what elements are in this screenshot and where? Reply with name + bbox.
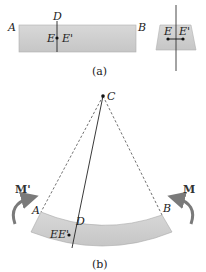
straight-beam — [19, 25, 136, 52]
moment-m-arrow — [176, 198, 193, 224]
cross-label-e: E — [163, 25, 172, 38]
label-a: A — [7, 21, 16, 34]
label-a-b: A — [31, 204, 40, 217]
caption-a: (a) — [92, 65, 107, 78]
caption-b: (b) — [92, 258, 108, 271]
figure-b: C A B D EE' M' M (b) — [13, 90, 195, 271]
label-b-b: B — [162, 202, 171, 215]
point-e — [55, 36, 58, 39]
label-d: D — [52, 10, 62, 23]
label-e-prime: E' — [61, 32, 73, 45]
dashed-line-cb — [103, 96, 162, 215]
label-ee-prime: EE' — [49, 228, 69, 241]
label-c: C — [107, 90, 116, 103]
label-e: E — [46, 32, 55, 45]
label-d-b: D — [75, 215, 85, 228]
center-c — [101, 94, 105, 98]
cross-label-e-prime: E' — [178, 25, 190, 38]
dashed-line-ca — [41, 96, 103, 212]
label-b: B — [137, 21, 146, 34]
beam-bending-diagram: A B D E E' E E' (a) C A B D EE' M' — [0, 0, 206, 272]
label-m-prime: M' — [15, 183, 31, 196]
moment-m-prime-arrow — [13, 198, 30, 224]
figure-a: A B D E E' E E' (a) — [7, 5, 196, 78]
label-m: M — [183, 183, 195, 196]
